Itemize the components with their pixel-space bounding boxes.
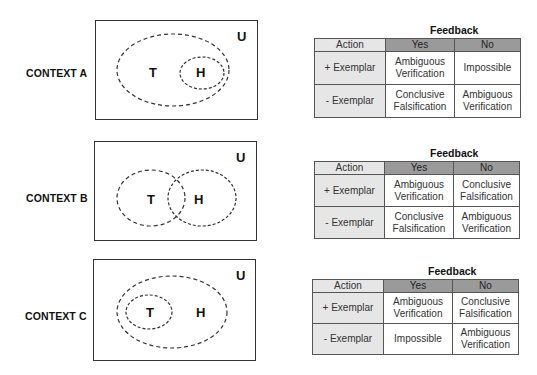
set-t-label: T (149, 65, 157, 80)
feedback-table-c: Action Yes No + Exemplar AmbiguousVerifi… (312, 279, 519, 355)
cell-plus-no: ConclusiveFalsification (453, 293, 519, 324)
header-action: Action (315, 162, 385, 175)
row-plus-exemplar: + Exemplar (313, 293, 384, 324)
row-minus-exemplar: - Exemplar (313, 324, 384, 355)
cell-plus-yes: AmbiguousVerification (386, 52, 455, 85)
venn-diagram-context-b: U T H (94, 141, 257, 241)
cell-minus-no: AmbiguousVerification (453, 324, 519, 355)
context-b-label: CONTEXT B (26, 192, 88, 204)
cell-minus-yes: ConclusiveFalsification (386, 85, 455, 118)
row-plus-exemplar: + Exemplar (315, 52, 386, 85)
header-yes: Yes (384, 280, 453, 293)
set-t-label: T (146, 305, 154, 320)
header-no: No (453, 280, 519, 293)
set-h-label: H (194, 192, 203, 207)
cell-plus-yes: AmbiguousVerification (385, 175, 454, 207)
cell-plus-no: Impossible (455, 52, 521, 85)
row-minus-exemplar: - Exemplar (315, 207, 385, 239)
set-h-label: H (196, 65, 205, 80)
feedback-table-b: Action Yes No + Exemplar AmbiguousVerifi… (314, 161, 520, 239)
cell-minus-no: AmbiguousVerification (454, 207, 520, 239)
venn-diagram-context-a: U T H (95, 20, 258, 120)
venn-sets-a (96, 21, 259, 121)
header-yes: Yes (385, 162, 454, 175)
venn-sets-b (95, 142, 258, 242)
header-action: Action (313, 280, 384, 293)
universe-label: U (236, 268, 245, 283)
cell-minus-yes: Impossible (384, 324, 453, 355)
header-yes: Yes (386, 39, 455, 52)
set-h-label: H (196, 305, 205, 320)
set-t-label: T (147, 192, 155, 207)
row-plus-exemplar: + Exemplar (315, 175, 385, 207)
cell-minus-no: AmbiguousVerification (455, 85, 521, 118)
context-c-label: CONTEXT C (25, 310, 87, 322)
header-no: No (454, 162, 520, 175)
feedback-title-b: Feedback (430, 147, 478, 159)
universe-label: U (236, 150, 245, 165)
feedback-title-c: Feedback (428, 265, 476, 277)
context-a-label: CONTEXT A (26, 67, 87, 79)
cell-plus-yes: AmbiguousVerification (384, 293, 453, 324)
set-t-ellipse (117, 34, 229, 106)
cell-plus-no: ConclusiveFalsification (454, 175, 520, 207)
header-action: Action (315, 39, 386, 52)
universe-label: U (237, 29, 246, 44)
row-minus-exemplar: - Exemplar (315, 85, 386, 118)
feedback-table-a: Action Yes No + Exemplar AmbiguousVerifi… (314, 38, 521, 118)
header-no: No (455, 39, 521, 52)
cell-minus-yes: ConclusiveFalsification (385, 207, 454, 239)
venn-sets-c (94, 260, 257, 362)
venn-diagram-context-c: U T H (93, 259, 256, 361)
feedback-title-a: Feedback (430, 24, 478, 36)
